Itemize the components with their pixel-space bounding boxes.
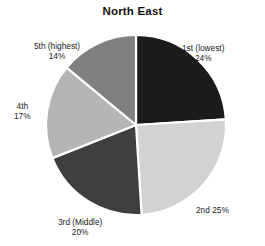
pie-label-1st-lowest: 1st (lowest) 24% [182, 43, 224, 64]
pie-label-4th-name: 4th [14, 101, 31, 111]
pie-label-2nd-value: 25% [212, 205, 229, 215]
pie-label-5th-highest-value: 14% [34, 51, 80, 61]
pie-label-3rd-middle-value: 20% [58, 227, 102, 237]
pie-slice [136, 119, 226, 214]
pie-label-5th-highest-name: 5th (highest) [34, 41, 80, 51]
pie-label-2nd-name: 2nd [196, 205, 210, 215]
pie-label-4th: 4th 17% [14, 101, 31, 122]
pie-label-3rd-middle-name: 3rd (Middle) [58, 217, 102, 227]
pie-label-3rd-middle: 3rd (Middle) 20% [58, 217, 102, 238]
pie-label-1st-lowest-value: 24% [182, 53, 224, 63]
pie-label-1st-lowest-name: 1st (lowest) [182, 43, 224, 53]
pie-label-2nd: 2nd 25% [196, 205, 229, 215]
pie-label-4th-value: 17% [14, 111, 31, 121]
pie-chart-figure: North East 1st (lowest) 24% 2nd 25% 3rd … [0, 0, 265, 246]
pie-label-5th-highest: 5th (highest) 14% [34, 41, 80, 62]
